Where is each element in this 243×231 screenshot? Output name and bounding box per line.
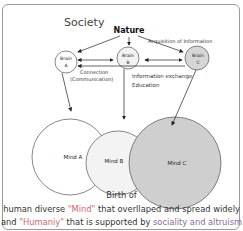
brain-c-circle xyxy=(185,46,209,70)
caption-humaniy-highlight: "Humaniy" xyxy=(19,217,64,227)
nature-to-brain-a-arrow xyxy=(78,36,120,52)
caption-line1: Birth of xyxy=(0,190,243,200)
brain-c-line2: C xyxy=(196,60,199,65)
brain-a-circle xyxy=(55,51,77,73)
caption-line2-a: human diverse xyxy=(3,204,68,214)
caption-line2-b: that overllaped and spread widely xyxy=(95,204,239,214)
brain-b-line2: B xyxy=(126,60,129,65)
society-title: Society xyxy=(64,16,105,29)
caption-sociality-highlight: sociality and altruism xyxy=(153,217,242,227)
caption-line3: and "Humaniy" that is supported by socia… xyxy=(0,217,243,227)
brain-c-line1: Brain xyxy=(192,53,204,58)
connection-label: Connection xyxy=(80,69,108,75)
mind-a-label: Mind A xyxy=(64,154,83,160)
acquisition-label: Acquisition of Information xyxy=(148,38,212,45)
brain-a-line1: Brain xyxy=(60,56,72,61)
nature-label: Nature xyxy=(114,26,146,35)
caption-line2: human diverse "Mind" that overllaped and… xyxy=(0,204,243,214)
caption-mind-highlight: "Mind" xyxy=(68,204,96,214)
caption-line3-b: that is supported by xyxy=(64,217,153,227)
brain-b-line1: Brain xyxy=(122,53,134,58)
communication-label: (Communication) xyxy=(70,76,113,82)
mind-b-label: Mind B xyxy=(105,158,124,164)
mind-c-label: Mind C xyxy=(168,160,187,166)
education-label: Education xyxy=(132,82,160,88)
info-exchange-label: Information exchange xyxy=(132,73,193,80)
caption-line3-a: and xyxy=(1,217,19,227)
